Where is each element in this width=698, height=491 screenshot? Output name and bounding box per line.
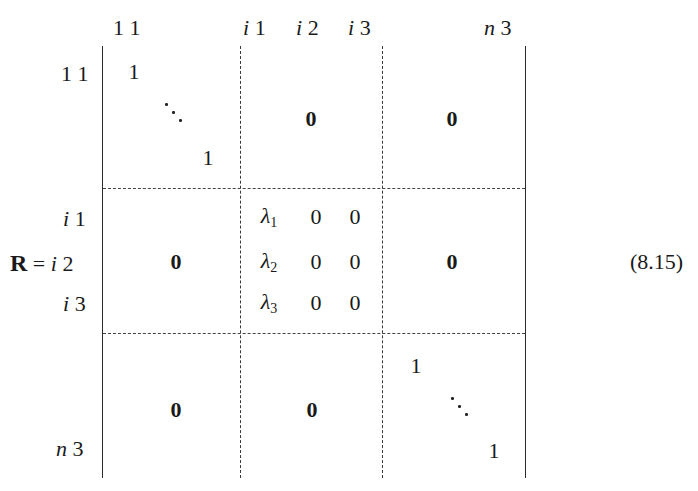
column-label-i2: i 2: [296, 17, 319, 39]
column-label-suffix: 3: [360, 15, 371, 40]
column-label-suffix: 3: [501, 15, 512, 40]
lambda-symbol: λ: [261, 248, 271, 273]
row-label-prefix: i: [51, 251, 57, 276]
lambda-subscript: 2: [270, 260, 277, 275]
row-label-i1: i 1: [63, 208, 86, 230]
entry-r3-c2: 0: [311, 292, 322, 314]
partition-vertical-2: [382, 46, 383, 478]
column-label-text: 1 1: [113, 15, 141, 40]
identity-diag-end-bottom: 1: [489, 440, 500, 462]
column-label-suffix: 1: [255, 15, 266, 40]
row-label-prefix: i: [63, 206, 69, 231]
row-label-suffix: 3: [73, 436, 84, 461]
row-label-i2-with-lhs: R = i 2: [10, 251, 73, 275]
lambda-3: λ3: [261, 291, 278, 316]
row-label-suffix: 1: [75, 206, 86, 231]
zero-block-bottom-middle: 0: [307, 399, 318, 421]
partition-vertical-1: [240, 46, 241, 478]
entry-r2-c3: 0: [350, 251, 361, 273]
column-label-i1: i 1: [243, 17, 266, 39]
entry-r2-c2: 0: [311, 251, 322, 273]
column-label-11: 1 1: [113, 17, 141, 39]
column-label-n3: n 3: [484, 17, 512, 39]
zero-block-middle-right: 0: [447, 251, 458, 273]
entry-r3-c3: 0: [350, 292, 361, 314]
column-label-suffix: 2: [308, 15, 319, 40]
column-label-i3: i 3: [348, 17, 371, 39]
row-label-prefix: i: [63, 291, 69, 316]
equation-number: (8.15): [630, 251, 683, 273]
row-label-suffix: 2: [62, 251, 73, 276]
partition-horizontal-2: [103, 333, 525, 334]
zero-block-top-right: 0: [447, 108, 458, 130]
column-label-prefix: i: [348, 15, 354, 40]
entry-r1-c3: 0: [350, 206, 361, 228]
lambda-subscript: 1: [270, 215, 277, 230]
row-label-prefix: n: [56, 436, 67, 461]
partition-horizontal-1: [103, 188, 525, 189]
matrix-right-bar: [525, 46, 526, 478]
zero-block-top-middle: 0: [306, 108, 317, 130]
lambda-symbol: λ: [261, 289, 271, 314]
column-label-prefix: i: [296, 15, 302, 40]
equals-sign: =: [33, 251, 45, 276]
identity-diag-end: 1: [203, 147, 214, 169]
row-label-i3: i 3: [63, 293, 86, 315]
zero-block-bottom-left: 0: [171, 399, 182, 421]
matrix-left-bar: [102, 46, 103, 478]
matrix-symbol-R: R: [10, 250, 27, 276]
zero-block-middle-left: 0: [171, 251, 182, 273]
lambda-subscript: 3: [270, 301, 277, 316]
row-label-text: 1 1: [61, 61, 89, 86]
column-label-prefix: i: [243, 15, 249, 40]
lambda-symbol: λ: [261, 203, 271, 228]
identity-diag-start: 1: [129, 61, 140, 83]
column-label-prefix: n: [484, 15, 495, 40]
lambda-2: λ2: [261, 250, 278, 275]
row-label-n3: n 3: [56, 438, 84, 460]
row-label-suffix: 3: [75, 291, 86, 316]
entry-r1-c2: 0: [311, 206, 322, 228]
lambda-1: λ1: [261, 205, 278, 230]
row-label-11: 1 1: [61, 63, 89, 85]
identity-diag-start-bottom: 1: [411, 355, 422, 377]
